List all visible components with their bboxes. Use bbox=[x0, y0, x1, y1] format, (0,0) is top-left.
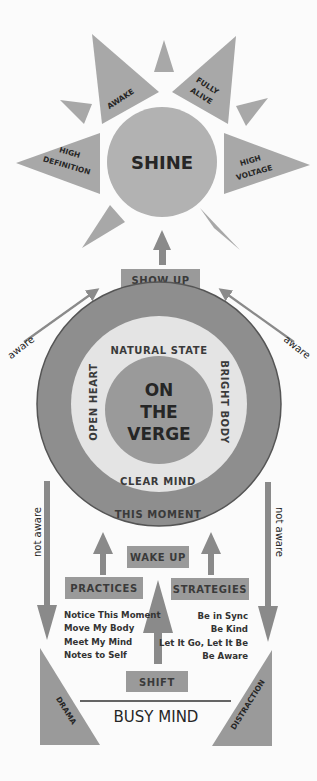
verge-center-line-1: ON bbox=[145, 380, 174, 400]
aware-label-left: aware bbox=[5, 334, 36, 361]
on-the-verge-diagram: SHINE AWAKE FULLY ALIVE HIGH DEFINITION … bbox=[0, 0, 317, 781]
arrow-not-aware-left bbox=[37, 481, 57, 640]
natural-state-label: NATURAL STATE bbox=[110, 345, 207, 356]
arrow-showup-to-shine bbox=[153, 230, 171, 265]
sun-ray-small-lower-left bbox=[82, 205, 125, 248]
arrow-shift-up bbox=[143, 580, 173, 664]
bright-body-label: BRIGHT BODY bbox=[219, 360, 230, 444]
practices-list: Notice This Moment Move My Body Meet My … bbox=[64, 610, 161, 660]
strategy-item[interactable]: Be Kind bbox=[211, 624, 248, 634]
strategies-label: STRATEGIES bbox=[173, 584, 247, 595]
open-heart-label: OPEN HEART bbox=[88, 363, 99, 441]
verge-center-line-2: THE bbox=[140, 402, 177, 422]
aware-label-right: aware bbox=[282, 334, 313, 361]
clear-mind-label: CLEAR MIND bbox=[120, 476, 196, 487]
sun-ray-small-top bbox=[154, 40, 174, 72]
practice-item[interactable]: Notice This Moment bbox=[64, 610, 161, 620]
sun bbox=[16, 34, 310, 250]
sun-ray-small-lower-right bbox=[200, 208, 240, 250]
shift-label: SHIFT bbox=[139, 677, 175, 688]
sun-ray-small-upper-left bbox=[60, 100, 92, 124]
drama-triangle[interactable] bbox=[40, 648, 100, 745]
practice-item[interactable]: Move My Body bbox=[64, 623, 135, 633]
sun-center-label: SHINE bbox=[131, 152, 193, 173]
strategy-item[interactable]: Be Aware bbox=[202, 651, 248, 661]
verge-center-line-3: VERGE bbox=[127, 424, 190, 444]
arrow-practices-up bbox=[93, 532, 113, 575]
this-moment-label: THIS MOMENT bbox=[115, 509, 202, 520]
sun-ray-small-upper-right bbox=[236, 98, 268, 126]
busy-mind-label: BUSY MIND bbox=[114, 708, 199, 726]
strategy-item[interactable]: Be in Sync bbox=[198, 611, 248, 621]
strategies-list: Be in Sync Be Kind Let It Go, Let It Be … bbox=[159, 611, 248, 661]
practices-label: PRACTICES bbox=[70, 583, 137, 594]
practice-item[interactable]: Meet My Mind bbox=[64, 637, 132, 647]
practice-item[interactable]: Notes to Self bbox=[64, 650, 127, 660]
wake-up-label: WAKE UP bbox=[130, 552, 186, 563]
not-aware-label-right: not aware bbox=[274, 507, 285, 557]
strategy-item[interactable]: Let It Go, Let It Be bbox=[159, 638, 248, 648]
arrow-strategies-up bbox=[201, 532, 221, 575]
distraction-triangle[interactable] bbox=[212, 650, 272, 746]
not-aware-label-left: not aware bbox=[32, 507, 43, 557]
